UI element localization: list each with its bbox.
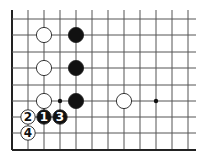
star-point-icon <box>154 99 158 103</box>
move-2-white-stone: 2 <box>21 110 35 125</box>
move-1-black-stone: 1 <box>37 110 51 125</box>
move-number: 1 <box>40 110 48 124</box>
black-stone <box>68 60 83 75</box>
move-number: 4 <box>24 126 32 140</box>
star-point-icon <box>58 99 62 103</box>
move-3-black-stone: 3 <box>53 110 67 125</box>
white-stone <box>36 27 51 42</box>
move-4-white-stone: 4 <box>21 126 35 141</box>
white-stone <box>116 93 131 108</box>
go-board-diagram: 1234 <box>0 0 207 162</box>
white-stone <box>36 60 51 75</box>
black-stone <box>68 93 83 108</box>
white-stone <box>36 93 51 108</box>
black-stone <box>68 27 83 42</box>
move-number: 2 <box>24 110 32 124</box>
move-number: 3 <box>56 110 64 124</box>
